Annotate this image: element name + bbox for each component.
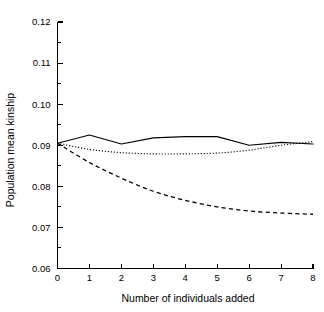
chart-figure: 0.120.110.100.090.080.070.06 012345678 P…	[0, 0, 324, 312]
y-tick-label: 0.09	[32, 140, 51, 151]
x-tick-label: 3	[151, 272, 156, 283]
x-tick-label: 6	[246, 272, 251, 283]
y-tick-label: 0.06	[32, 263, 51, 274]
line-chart: 0.120.110.100.090.080.070.06 012345678 P…	[0, 0, 324, 312]
y-tick-label: 0.12	[32, 16, 51, 27]
x-tick-label: 0	[55, 272, 60, 283]
x-tick-label: 2	[119, 272, 124, 283]
x-tick-label: 8	[310, 272, 315, 283]
x-axis-title: Number of individuals added	[121, 292, 254, 304]
x-tick-label: 7	[278, 272, 283, 283]
y-tick-label: 0.07	[32, 222, 51, 233]
y-tick-label: 0.10	[32, 99, 51, 110]
y-axis-title: Population mean kinship	[4, 93, 16, 208]
x-tick-label: 1	[87, 272, 92, 283]
y-tick-label: 0.08	[32, 181, 51, 192]
x-tick-label: 4	[183, 272, 188, 283]
x-tick-label: 5	[215, 272, 220, 283]
y-tick-label: 0.11	[33, 57, 51, 68]
